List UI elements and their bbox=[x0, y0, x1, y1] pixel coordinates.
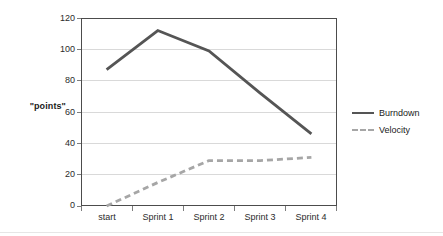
legend-label-velocity: Velocity bbox=[379, 125, 410, 135]
series-line-burndown bbox=[107, 31, 312, 134]
y-axis-tick-label: 120 bbox=[49, 13, 75, 23]
legend-label-burndown: Burndown bbox=[379, 108, 420, 118]
legend-item-burndown: Burndown bbox=[352, 104, 442, 121]
x-axis-tick-label-sprint-2: Sprint 2 bbox=[193, 212, 224, 222]
x-axis-tick-label-sprint-1: Sprint 1 bbox=[142, 212, 173, 222]
x-axis-tick-mark bbox=[183, 206, 184, 211]
x-axis-tick-mark bbox=[132, 206, 133, 211]
y-axis-tick-label: 100 bbox=[49, 44, 75, 54]
y-axis-tick-label: 60 bbox=[49, 107, 75, 117]
x-axis-tick-label-sprint-4: Sprint 4 bbox=[295, 212, 326, 222]
series-layer bbox=[81, 18, 337, 206]
page-edge-divider bbox=[0, 232, 443, 233]
y-axis-tick-label: 40 bbox=[49, 138, 75, 148]
x-axis-tick-label-sprint-3: Sprint 3 bbox=[244, 212, 275, 222]
legend-item-velocity: Velocity bbox=[352, 121, 442, 138]
x-axis-tick-mark bbox=[336, 206, 337, 211]
series-line-velocity bbox=[107, 157, 312, 206]
x-axis-tick-mark bbox=[285, 206, 286, 211]
y-axis-tick-labels: 120 100 80 60 40 20 0 bbox=[49, 0, 75, 236]
y-axis-tick-label: 80 bbox=[49, 75, 75, 85]
legend: Burndown Velocity bbox=[352, 104, 442, 138]
legend-swatch-dashed-line-icon bbox=[352, 125, 374, 135]
legend-swatch-solid-line-icon bbox=[352, 108, 374, 118]
y-axis-tick-label: 0 bbox=[49, 200, 75, 210]
line-chart: "points" 120 100 80 60 40 20 0 start Spr… bbox=[0, 0, 443, 236]
y-axis-tick-label: 20 bbox=[49, 169, 75, 179]
x-axis-tick-mark bbox=[234, 206, 235, 211]
x-axis-tick-mark bbox=[81, 206, 82, 211]
x-axis-tick-label-start: start bbox=[98, 212, 116, 222]
